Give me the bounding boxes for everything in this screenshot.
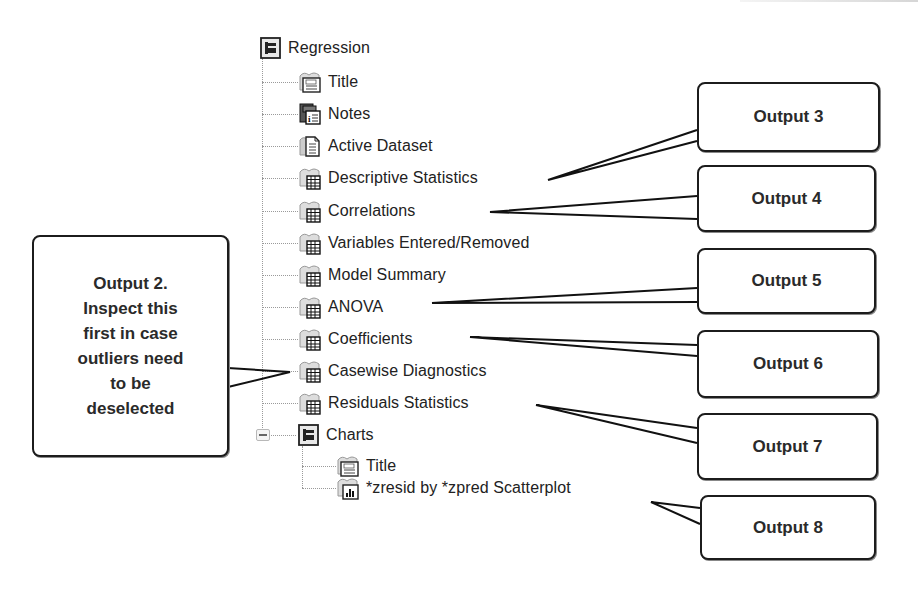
callout-label: Output 3: [754, 107, 824, 127]
callout-output-2: Output 2. Inspect this first in case out…: [32, 235, 229, 457]
callout-line: Output 2.: [78, 271, 184, 296]
callout-line: Inspect this: [78, 296, 184, 321]
connector-output-4: [490, 196, 697, 219]
callout-line: outliers need: [78, 346, 184, 371]
callout-label: Output 7: [753, 437, 823, 457]
callout-line: to be: [78, 371, 184, 396]
callout-output-3: Output 3: [697, 82, 880, 152]
callout-label: Output 5: [752, 271, 822, 291]
callout-output-6: Output 6: [697, 330, 879, 398]
callout-line: deselected: [78, 396, 184, 421]
callout-label: Output 4: [752, 189, 822, 209]
connector-output-5: [432, 288, 697, 303]
connector-output-6: [470, 337, 697, 356]
callout-label: Output 6: [753, 354, 823, 374]
callout-line: first in case: [78, 321, 184, 346]
callout-label: Output 8: [753, 518, 823, 538]
connector-output-3: [548, 130, 697, 180]
connector-output-8: [651, 502, 700, 524]
callout-output-4: Output 4: [697, 165, 876, 232]
callout-output-5: Output 5: [697, 248, 876, 314]
connector-output-7: [536, 405, 697, 443]
connector-output-2: [228, 368, 290, 387]
callout-output-8: Output 8: [700, 495, 876, 560]
callout-output-7: Output 7: [697, 413, 878, 480]
